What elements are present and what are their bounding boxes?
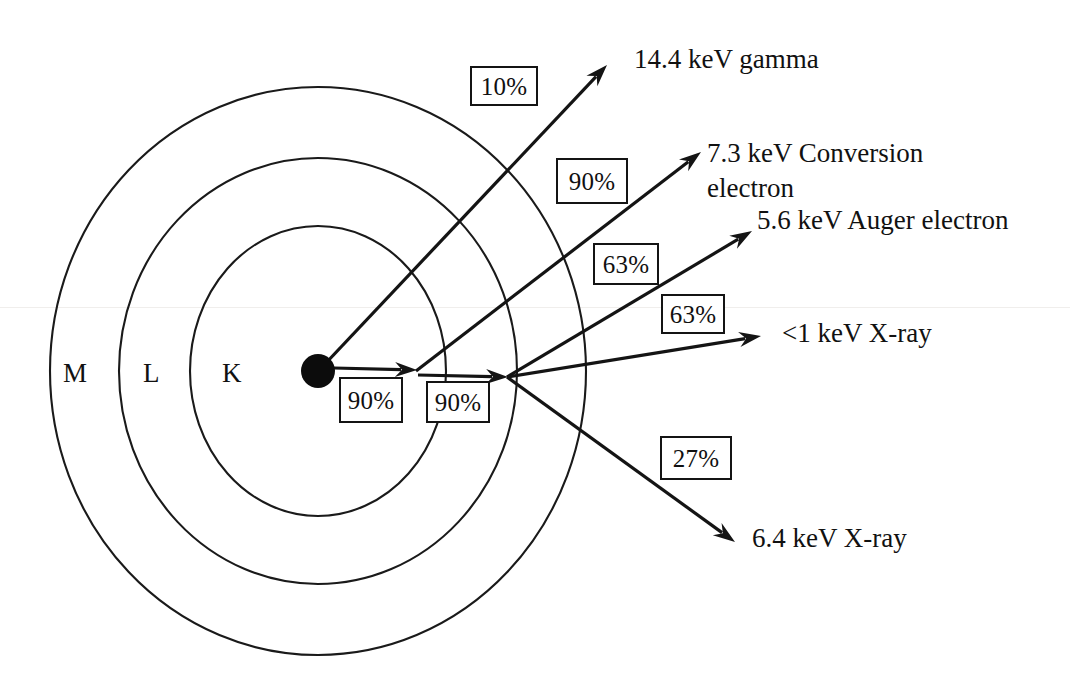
ray-line-l-shell-vacancy-fill	[418, 375, 492, 377]
percent-box-k-vacancy-branch: 90%	[339, 377, 403, 423]
decay-diagram: KLM 10%90%63%63%27%90%90% 14.4 keV gamma…	[0, 0, 1070, 688]
ray-line-soft-xray	[507, 339, 745, 377]
ray-line-gamma	[325, 77, 596, 364]
nucleus-icon	[301, 354, 335, 388]
arrowhead-conversion-electron	[679, 152, 701, 171]
ray-line-k-shell-vacancy-fill	[334, 368, 401, 370]
percent-box-gamma-branch: 10%	[470, 66, 538, 106]
percent-box-l-vacancy-branch: 90%	[426, 381, 490, 423]
percent-box-hard-xray-branch: 27%	[660, 436, 732, 480]
percent-box-conversion-branch: 90%	[556, 158, 628, 204]
emission-label-conversion-electron: 7.3 keV Conversion electron	[707, 136, 923, 206]
emission-label-soft-xray: <1 keV X-ray	[782, 316, 932, 351]
shell-label-m: M	[63, 360, 87, 387]
arrowhead-hard-xray	[713, 523, 735, 542]
emission-label-gamma: 14.4 keV gamma	[634, 42, 819, 77]
percent-box-soft-xray-branch: 63%	[661, 294, 725, 334]
arrowhead-auger-electron	[729, 231, 752, 249]
emission-label-auger-electron: 5.6 keV Auger electron	[757, 203, 1008, 238]
shell-label-l: L	[143, 360, 160, 387]
shell-label-k: K	[222, 360, 242, 387]
emission-label-hard-xray: 6.4 keV X-ray	[752, 521, 907, 556]
percent-box-auger-branch: 63%	[593, 243, 659, 285]
